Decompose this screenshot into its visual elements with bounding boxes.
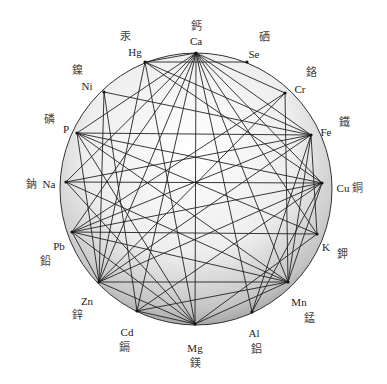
node-ca: [194, 51, 197, 54]
chinese-label-pb: 鉛: [40, 254, 51, 268]
chinese-label-mn: 錳: [304, 311, 315, 325]
chinese-label-al: 鋁: [251, 342, 262, 356]
chinese-label-cr: 鉻: [306, 65, 317, 79]
symbol-label-cd: Cd: [121, 326, 134, 338]
node-p: [75, 131, 78, 134]
node-fe: [309, 133, 312, 136]
symbol-label-cu: Cu: [337, 182, 350, 194]
chinese-label-se: 硒: [259, 31, 270, 44]
node-al: [250, 310, 253, 313]
symbol-label-k: K: [322, 241, 330, 253]
node-zn: [97, 280, 100, 283]
symbol-label-p: P: [63, 123, 69, 135]
node-pb: [70, 230, 73, 233]
symbol-label-zn: Zn: [81, 295, 94, 307]
symbol-label-hg: Hg: [128, 46, 142, 58]
chinese-label-cu: 銅: [352, 181, 363, 195]
node-se: [245, 60, 248, 63]
symbol-label-ni: Ni: [82, 80, 93, 92]
chinese-label-cd: 鎘: [119, 340, 130, 354]
node-ni: [102, 90, 105, 93]
symbol-label-pb: Pb: [53, 240, 65, 252]
chinese-label-p: 磷: [44, 113, 55, 126]
chinese-label-zn: 鋅: [72, 308, 83, 322]
chinese-label-ni: 鎳: [72, 63, 83, 77]
chinese-label-fe: 鐵: [339, 115, 350, 129]
symbol-label-mn: Mn: [291, 296, 307, 308]
chinese-label-na: 鈉: [26, 177, 37, 191]
chinese-label-ca: 鈣: [191, 19, 202, 33]
node-mn: [286, 280, 289, 283]
element-interaction-diagram: Ca鈣Se硒Cr鉻Fe鐵Cu銅K鉀Mn錳Al鋁Mg鎂Cd鎘Zn鋅Pb鉛Na鈉P磷…: [0, 0, 387, 384]
symbol-label-al: Al: [249, 327, 260, 339]
symbol-label-ca: Ca: [190, 35, 202, 47]
node-cr: [283, 91, 286, 94]
chinese-label-hg: 汞: [120, 30, 131, 43]
symbol-label-na: Na: [43, 178, 56, 190]
symbol-label-se: Se: [249, 48, 260, 60]
node-cd: [135, 309, 138, 312]
symbol-label-cr: Cr: [295, 83, 306, 95]
symbol-label-fe: Fe: [321, 126, 332, 138]
node-k: [315, 232, 318, 235]
symbol-label-mg: Mg: [187, 342, 203, 354]
chinese-label-mg: 鎂: [190, 356, 201, 370]
node-mg: [193, 322, 196, 325]
node-na: [64, 180, 67, 183]
node-hg: [143, 60, 146, 63]
chinese-label-k: 鉀: [337, 247, 348, 261]
node-cu: [320, 181, 323, 184]
